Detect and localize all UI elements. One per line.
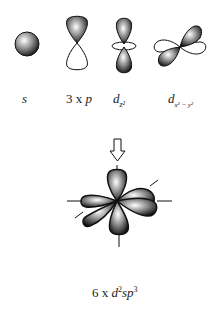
label-dz2-sub: z²	[120, 100, 126, 109]
label-s-text: s	[22, 91, 27, 106]
orbital-diagram	[0, 0, 220, 315]
dz2-orbital-icon	[112, 18, 136, 73]
s-orbital-icon	[15, 32, 39, 56]
result-sup2: 3	[134, 285, 138, 294]
result-count: 6 x	[92, 285, 108, 300]
d2sp3-hybrid-orbital-icon	[67, 165, 172, 247]
label-dx2y2-sub: x² − y²	[175, 101, 194, 109]
dx2-y2-orbital-icon	[154, 26, 206, 66]
label-dx2y2: dx² − y²	[168, 91, 193, 109]
label-s: s	[22, 91, 27, 107]
label-result: 6 x d2sp3	[92, 285, 138, 301]
label-p: 3 x p	[66, 91, 92, 107]
label-dz2: dz²	[113, 91, 125, 109]
result-mid: sp	[122, 285, 134, 300]
arrow-down-icon	[110, 139, 125, 161]
p-orbital-icon	[67, 16, 88, 70]
label-p-text: p	[86, 91, 93, 106]
label-p-prefix: 3 x	[66, 91, 86, 106]
